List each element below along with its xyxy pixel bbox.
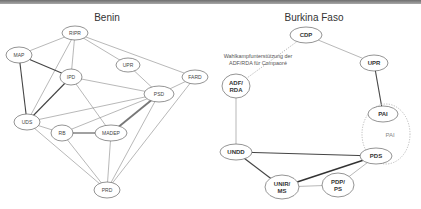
node-label: PDS [370,153,382,159]
titles-layer: Benin Burkina Faso [94,12,344,23]
edge-map-uds [19,55,27,122]
node-psd: PSD [144,86,174,102]
edge-madep-prd [107,133,111,190]
node-cdp: CDP [290,27,322,43]
annotation-line-1: Wahlkampfunterstützung der [224,53,293,59]
node-label: UNIR/ [274,181,291,187]
node-label: CDP [300,32,313,38]
node-upr: UPR [116,58,140,72]
node-label: RIPR [69,30,81,36]
node-label: UPR [123,62,134,68]
burkina-faso-title: Burkina Faso [285,12,344,23]
node-label: PDP/ [331,179,345,185]
party-network-diagram: PAI RIPRMAPUPRIPDFARDPSDUDSRBMADEPPRDCDP… [0,0,421,209]
node-label: RDA [230,87,244,93]
node-label: MS [278,188,287,194]
node-uds: UDS [14,114,40,130]
node-label: UNDD [227,149,245,155]
node-rb: RB [51,125,73,141]
edge-psd-prd [107,94,159,190]
node-pai-node: PAI [368,106,398,122]
edges-layer [19,33,383,190]
pai-group-label: PAI [385,132,395,138]
node-label: FARD [188,74,202,80]
node-madep: MADEP [95,125,127,141]
node-adf-rda: ADF/RDA [222,74,250,98]
benin-title: Benin [94,12,120,23]
node-ipd: IPD [60,69,82,85]
node-label: IPD [67,74,76,80]
annotation-layer: Wahlkampfunterstützung der ADF/RDA für C… [224,53,293,66]
node-pdp-ps: PDP/PS [322,173,354,197]
node-label: PSD [154,91,165,97]
node-undd: UNDD [220,144,252,160]
node-label: UPR [368,60,381,66]
node-fard: FARD [182,70,208,84]
edge-undd-pds [236,152,376,156]
node-prd: PRD [94,182,120,198]
node-unir-ms: UNIR/MS [265,175,299,199]
node-label: PAI [378,111,388,117]
annotation-line-2: ADF/RDA für Compaoré [229,60,287,66]
node-label: UDS [22,119,33,125]
node-label: ADF/ [229,80,243,86]
node-label: MADEP [102,130,120,136]
node-label: PRD [102,187,113,193]
node-label: MAP [14,52,26,58]
node-label: RB [59,130,67,136]
edge-rb-prd [62,133,107,190]
node-pds: PDS [360,148,392,164]
node-label: PS [334,186,342,192]
node-upr-bf: UPR [360,55,388,71]
edge-psd-uds [27,94,159,122]
node-ripr: RIPR [62,26,88,40]
edge-ipd-madep [71,77,111,133]
node-map: MAP [6,47,32,63]
